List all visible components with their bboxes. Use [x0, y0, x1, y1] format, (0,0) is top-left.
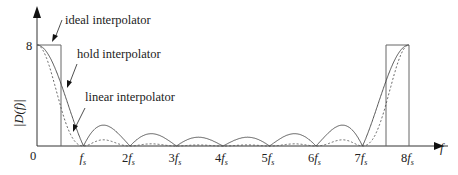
hold-label: hold interpolator — [77, 47, 161, 61]
y-axis-label: |D(f)| — [12, 99, 26, 127]
interpolator-frequency-chart: ideal interpolator hold interpolator lin… — [0, 0, 458, 175]
x-tick-labels: fs2fs3fs4fs5fs6fs7fs8fs — [80, 151, 414, 167]
x-tick-3fs: 3fs — [169, 151, 182, 167]
ideal-label: ideal interpolator — [65, 13, 152, 27]
chart-canvas: ideal interpolator hold interpolator lin… — [0, 0, 458, 175]
x-tick-2fs: 2fs — [122, 151, 135, 167]
linear-label: linear interpolator — [85, 90, 176, 104]
hold-pointer — [70, 64, 77, 82]
ideal-rect-right — [386, 45, 409, 146]
linear-pointer — [76, 108, 85, 126]
x-tick-1fs: fs — [80, 151, 87, 167]
x-tick-0: 0 — [30, 149, 36, 163]
x-tick-4fs: 4fs — [215, 151, 228, 167]
ideal-arrow-icon — [52, 34, 58, 42]
x-axis-label: f — [440, 141, 445, 155]
x-tick-6fs: 6fs — [308, 151, 321, 167]
x-tick-8fs: 8fs — [401, 151, 414, 167]
x-tick-7fs: 7fs — [355, 151, 368, 167]
y-axis-arrow-icon — [33, 6, 41, 18]
hold-arrow-icon — [67, 80, 72, 88]
y-tick-8: 8 — [26, 39, 32, 53]
x-tick-5fs: 5fs — [262, 151, 275, 167]
